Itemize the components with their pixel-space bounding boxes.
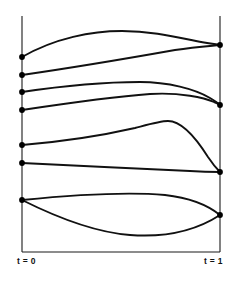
end-node-dot <box>217 169 223 175</box>
figure-root: t = 0 t = 1 <box>0 0 240 281</box>
flow-curve <box>22 82 220 105</box>
start-node-dot <box>19 89 25 95</box>
start-node-dot <box>19 160 25 166</box>
flow-curve <box>22 45 220 75</box>
start-node-dot <box>19 107 25 113</box>
end-node-dot <box>217 102 223 108</box>
end-node-dot <box>217 42 223 48</box>
axis-label-t-one: t = 1 <box>204 256 223 266</box>
start-node-dot <box>19 54 25 60</box>
flow-curve <box>22 200 220 236</box>
end-node-dot <box>217 212 223 218</box>
axis-label-t-zero: t = 0 <box>17 256 36 266</box>
flow-diagram-canvas <box>0 0 240 281</box>
start-node-dot <box>19 72 25 78</box>
start-node-dot <box>19 197 25 203</box>
start-node-dot <box>19 142 25 148</box>
flow-curve <box>22 163 220 172</box>
flow-curve <box>22 31 220 57</box>
flow-curve <box>22 94 220 110</box>
flow-curves-group <box>22 31 220 236</box>
flow-curve <box>22 194 220 215</box>
